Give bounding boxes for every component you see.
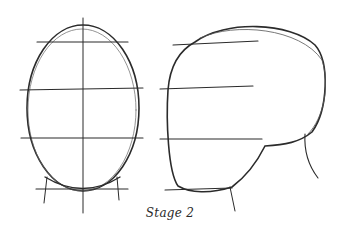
figure-caption: Stage 2 [0, 206, 340, 220]
front-view-sketch [20, 18, 143, 213]
side-view-sketch [160, 27, 326, 211]
